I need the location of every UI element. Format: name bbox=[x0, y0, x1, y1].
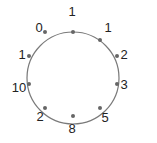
node-label: 3 bbox=[120, 77, 127, 92]
node-dot bbox=[71, 114, 75, 118]
node-label: 5 bbox=[101, 110, 108, 125]
node-label: 1 bbox=[104, 20, 111, 35]
node-label: 10 bbox=[12, 80, 26, 95]
node-dot bbox=[43, 30, 47, 34]
node-label: 8 bbox=[68, 121, 75, 136]
node-label: 2 bbox=[36, 109, 43, 124]
node-label: 2 bbox=[120, 47, 127, 62]
labels-group: 11235821010 bbox=[12, 4, 128, 136]
node-dot bbox=[27, 54, 31, 58]
nodes-group bbox=[27, 30, 119, 118]
circle-diagram: 11235821010 bbox=[0, 0, 157, 143]
node-dot bbox=[115, 82, 119, 86]
node-label: 1 bbox=[18, 47, 25, 62]
node-dot bbox=[98, 38, 102, 42]
node-dot bbox=[27, 82, 31, 86]
node-label: 1 bbox=[68, 4, 75, 19]
node-dot bbox=[115, 54, 119, 58]
node-label: 0 bbox=[35, 20, 42, 35]
node-dot bbox=[71, 30, 75, 34]
